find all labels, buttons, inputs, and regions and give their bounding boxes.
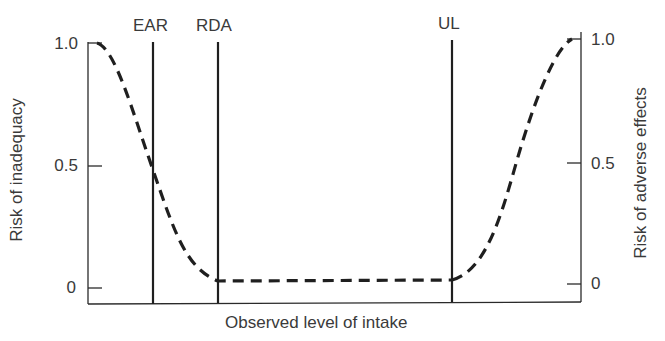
risk-intake-chart: EAR RDA UL 1.0 0.5 0 1.0 0.5 0 Observed … (0, 0, 665, 341)
left-tick-label-1: 1.0 (38, 34, 78, 54)
x-axis (88, 302, 581, 304)
chart-svg (0, 0, 665, 341)
right-tick-label-0: 0 (591, 274, 600, 294)
right-tick-label-05: 0.5 (591, 154, 615, 174)
ear-label: EAR (133, 16, 168, 36)
y-axis-left-title: Risk of inadequacy (7, 98, 27, 242)
left-tick-label-0: 0 (36, 278, 76, 298)
risk-adverse-curve (452, 39, 572, 280)
risk-inadequacy-curve (97, 43, 452, 281)
right-tick-label-1: 1.0 (591, 30, 615, 50)
y-axis-right-title: Risk of adverse effects (631, 87, 651, 259)
ul-label: UL (438, 14, 460, 34)
x-axis-title: Observed level of intake (225, 313, 407, 333)
left-tick-label-05: 0.5 (38, 156, 78, 176)
rda-label: RDA (196, 16, 232, 36)
